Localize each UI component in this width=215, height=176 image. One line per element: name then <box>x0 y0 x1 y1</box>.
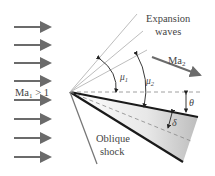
mach-upstream-label: Ma1 > 1 <box>15 87 49 100</box>
expansion-label-line1: Expansion <box>146 13 191 24</box>
mu2-angle-arc <box>137 55 146 107</box>
theta-label: θ <box>189 97 194 108</box>
mu1-angle-arc <box>100 59 116 92</box>
oblique-shock-label-line2: shock <box>100 146 125 157</box>
oblique-shock-label-line1: Oblique <box>96 133 130 144</box>
delta-label: δ <box>172 117 177 128</box>
expansion-waves <box>70 14 147 92</box>
wedge-body <box>70 92 198 162</box>
wedge-flow-diagram: Expansion waves Ma1 > 1 Ma2 μ1 μ2 θ δ Ob… <box>0 0 215 176</box>
mu2-label: μ2 <box>145 76 155 87</box>
expansion-label-line2: waves <box>155 26 181 37</box>
mu1-label: μ1 <box>119 72 128 83</box>
